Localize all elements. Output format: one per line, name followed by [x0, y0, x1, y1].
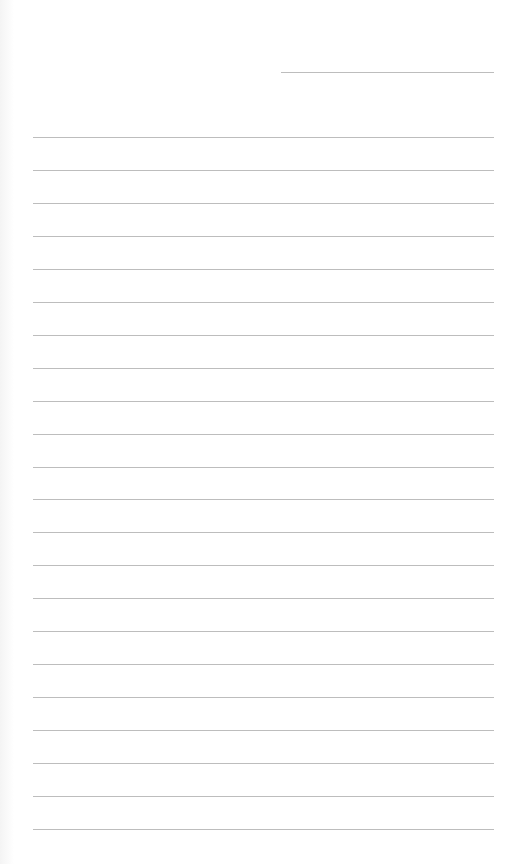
ruled-line — [33, 829, 494, 830]
ruled-line — [33, 598, 494, 599]
page-edge-shadow — [0, 0, 14, 864]
ruled-line — [33, 730, 494, 731]
ruled-line — [33, 203, 494, 204]
ruled-line — [33, 401, 494, 402]
ruled-line — [33, 697, 494, 698]
ruled-line — [33, 302, 494, 303]
ruled-line — [33, 335, 494, 336]
ruled-line — [33, 631, 494, 632]
ruled-line — [33, 467, 494, 468]
ruled-line — [33, 170, 494, 171]
ruled-line — [33, 368, 494, 369]
ruled-line — [33, 499, 494, 500]
ruled-line — [33, 763, 494, 764]
ruled-line — [33, 532, 494, 533]
header-name-line — [281, 72, 494, 73]
ruled-line — [33, 236, 494, 237]
ruled-line — [33, 137, 494, 138]
ruled-line — [33, 796, 494, 797]
ruled-line — [33, 269, 494, 270]
ruled-line — [33, 434, 494, 435]
ruled-line — [33, 565, 494, 566]
ruled-line — [33, 664, 494, 665]
